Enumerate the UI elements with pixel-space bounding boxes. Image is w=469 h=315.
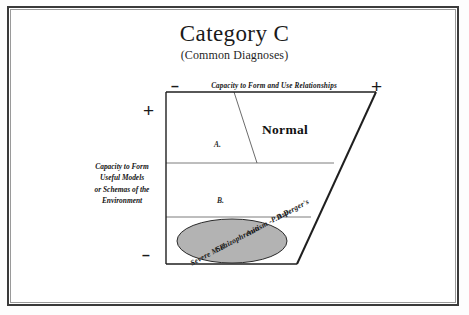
normal-region-label: Normal: [262, 122, 308, 138]
zone-a-label: A.: [214, 140, 221, 149]
page-canvas: Category C (Common Diagnoses) Capacity t…: [0, 0, 469, 315]
category-c-diagram: Severe M.R. Schizophrenia Autism -P.D.D.…: [0, 0, 469, 315]
zone-b-label: B.: [217, 196, 224, 205]
